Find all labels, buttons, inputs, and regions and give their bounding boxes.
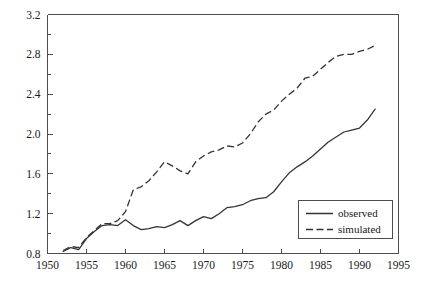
x-tick-label: 1985 <box>309 259 332 271</box>
line-chart: 0.81.21.62.02.42.83.2 195019551960196519… <box>0 0 421 283</box>
y-axis-tick-labels: 0.81.21.62.02.42.83.2 <box>26 9 41 260</box>
legend-label-observed: observed <box>338 207 378 219</box>
y-tick-label: 2.0 <box>26 128 41 140</box>
x-tick-label: 1960 <box>114 259 137 271</box>
x-tick-label: 1950 <box>36 259 59 271</box>
x-tick-label: 1975 <box>231 259 254 271</box>
x-axis-ticks <box>48 249 399 254</box>
x-tick-label: 1965 <box>153 259 176 271</box>
x-tick-label: 1970 <box>192 259 215 271</box>
y-axis-ticks <box>48 15 53 254</box>
x-tick-label: 1990 <box>348 259 371 271</box>
legend: observed simulated <box>299 201 393 239</box>
legend-label-simulated: simulated <box>338 223 381 235</box>
x-tick-label: 1995 <box>387 259 410 271</box>
y-tick-label: 1.6 <box>26 168 41 180</box>
x-tick-label: 1980 <box>270 259 293 271</box>
y-tick-label: 1.2 <box>26 208 41 220</box>
x-axis-tick-labels: 1950195519601965197019751980198519901995 <box>36 259 410 271</box>
y-tick-label: 2.4 <box>26 88 41 100</box>
chart-figure: 0.81.21.62.02.42.83.2 195019551960196519… <box>0 0 421 283</box>
y-tick-label: 3.2 <box>26 9 41 21</box>
x-tick-label: 1955 <box>75 259 98 271</box>
y-tick-label: 2.8 <box>26 48 41 60</box>
